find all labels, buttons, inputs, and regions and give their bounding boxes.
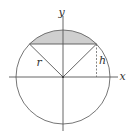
radius-line-left — [30, 44, 64, 77]
origin-point — [62, 76, 64, 78]
y-axis-label: y — [58, 6, 66, 19]
height-label: h — [99, 54, 106, 67]
radius-label: r — [37, 56, 43, 69]
x-axis-label: x — [120, 70, 127, 83]
radius-line-right — [63, 44, 97, 77]
circle-segment-diagram: y x r h — [0, 0, 130, 139]
